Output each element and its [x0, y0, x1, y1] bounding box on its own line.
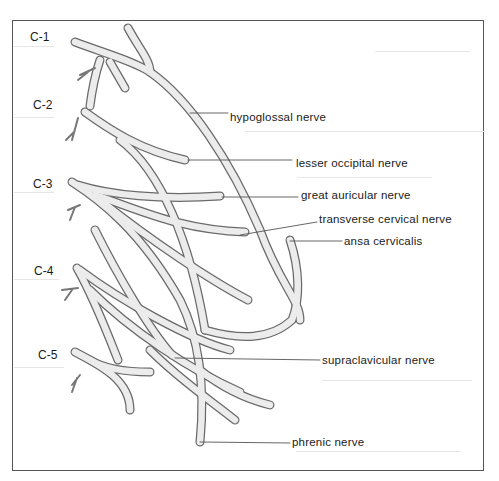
- label-phrenic-nerve: phrenic nerve: [292, 436, 364, 448]
- level-label-c1: C-1: [30, 30, 49, 44]
- label-transverse-cervical-nerve: transverse cervical nerve: [319, 213, 452, 225]
- level-label-c3: C-3: [33, 177, 52, 191]
- cervical-plexus-illustration: [0, 0, 499, 481]
- label-lesser-occipital-nerve: lesser occipital nerve: [296, 157, 408, 169]
- label-hypoglossal-nerve: hypoglossal nerve: [230, 111, 326, 123]
- level-label-c5: C-5: [38, 348, 57, 362]
- level-label-c4: C-4: [34, 264, 53, 278]
- label-great-auricular-nerve: great auricular nerve: [301, 189, 411, 201]
- label-supraclavicular-nerve: supraclavicular nerve: [322, 354, 435, 366]
- label-ansa-cervicalis: ansa cervicalis: [344, 235, 422, 247]
- level-label-c2: C-2: [33, 98, 52, 112]
